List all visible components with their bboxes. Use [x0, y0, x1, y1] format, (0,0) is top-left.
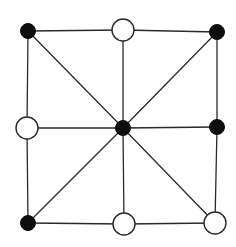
board-line-top-right-center [123, 32, 217, 128]
game-board [0, 0, 236, 247]
board-line-middle-right-bottom-right [215, 127, 217, 223]
board-line-top-left-top-middle [28, 30, 123, 31]
white-piece-bottom-middle[interactable] [113, 213, 135, 235]
board-line-top-left-middle-left [27, 31, 28, 128]
board-line-top-left-center [28, 31, 123, 128]
white-piece-bottom-right[interactable] [204, 212, 226, 234]
black-piece-top-right[interactable] [210, 25, 225, 40]
board-line-center-middle-right [123, 127, 217, 128]
white-piece-top-middle[interactable] [112, 19, 134, 41]
board-line-center-bottom-middle [123, 128, 124, 224]
board-line-bottom-middle-bottom-right [124, 223, 215, 224]
black-piece-top-left[interactable] [21, 24, 36, 39]
board-line-bottom-left-bottom-middle [28, 223, 124, 224]
board-line-center-bottom-left [28, 128, 123, 223]
board-line-middle-left-bottom-left [27, 128, 28, 223]
black-piece-center[interactable] [116, 121, 131, 136]
board-line-top-middle-top-right [123, 30, 217, 32]
black-piece-middle-right[interactable] [210, 120, 225, 135]
white-piece-middle-left[interactable] [16, 117, 38, 139]
black-piece-bottom-left[interactable] [21, 216, 36, 231]
board-line-center-bottom-right [123, 128, 215, 223]
